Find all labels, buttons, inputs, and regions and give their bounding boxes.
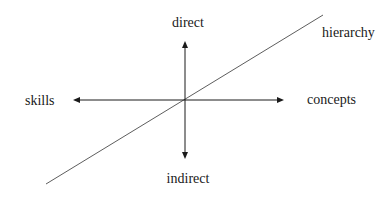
label-skills: skills [25,93,55,108]
label-hierarchy: hierarchy [322,25,375,40]
label-concepts: concepts [307,92,356,107]
horizontal-axis [73,97,284,103]
arrow-up-icon [182,41,188,48]
arrow-left-icon [73,97,80,103]
axes-diagram: direct indirect skills concepts hierarch… [0,0,391,198]
label-indirect: indirect [167,171,210,186]
label-direct: direct [172,15,204,30]
arrow-down-icon [182,152,188,159]
arrow-right-icon [277,97,284,103]
